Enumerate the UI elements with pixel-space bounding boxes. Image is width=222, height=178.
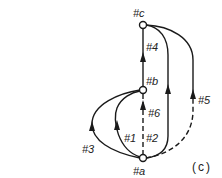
arrow-up-icon — [140, 52, 146, 62]
node-a-label: #a — [133, 165, 145, 177]
edge-4-label: #4 — [146, 41, 158, 53]
node-a — [140, 155, 147, 162]
node-c-label: #c — [133, 7, 145, 19]
edge-6-label: #6 — [148, 107, 161, 119]
arrow-up-icon — [165, 84, 171, 94]
edge-6 — [140, 93, 146, 155]
edge-3 — [89, 90, 140, 158]
node-b-label: #b — [146, 75, 158, 87]
edge-3-label: #3 — [82, 143, 95, 155]
edge-5-label: #5 — [198, 94, 211, 106]
edge-2-label: #2 — [146, 132, 158, 144]
arrow-up-icon — [140, 100, 146, 110]
node-b — [140, 87, 147, 94]
directed-graph-diagram: #c #b #a #4 #6 #1 #2 #3 #5 (c) — [0, 0, 222, 178]
edge-1-label: #1 — [124, 132, 136, 144]
arrow-up-icon — [89, 121, 95, 131]
node-c — [140, 22, 147, 29]
figure-caption: (c) — [192, 160, 212, 174]
arrow-up-icon — [190, 89, 196, 99]
edge-1 — [114, 91, 140, 157]
